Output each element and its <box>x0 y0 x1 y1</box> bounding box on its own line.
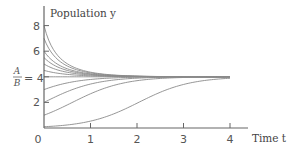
x-tick-label: 3 <box>180 133 187 146</box>
solution-curve <box>44 58 230 77</box>
solution-curve <box>44 26 230 77</box>
equilibrium-label: A B = 4 <box>13 66 44 88</box>
population-chart: 268 01234 Population y Time t A B = 4 <box>0 0 301 153</box>
fraction-numerator: A <box>13 66 21 76</box>
y-axis-title: Population y <box>50 7 116 19</box>
solution-curve <box>44 38 230 76</box>
solution-curve <box>44 77 230 115</box>
fraction-denominator: B <box>13 78 21 88</box>
x-tick-label: 0 <box>35 133 42 146</box>
x-axis-title: Time t <box>252 132 287 144</box>
solution-curves <box>44 26 230 127</box>
x-tick-label: 2 <box>134 133 141 146</box>
y-tick-label: 6 <box>33 45 40 58</box>
equilibrium-value: = 4 <box>24 72 44 85</box>
solution-curve <box>44 77 230 90</box>
y-tick-label: 2 <box>33 96 40 109</box>
x-tick-label: 1 <box>87 133 94 146</box>
x-ticks: 01234 <box>35 123 234 146</box>
x-tick-label: 4 <box>227 133 234 146</box>
y-tick-label: 8 <box>33 20 40 33</box>
